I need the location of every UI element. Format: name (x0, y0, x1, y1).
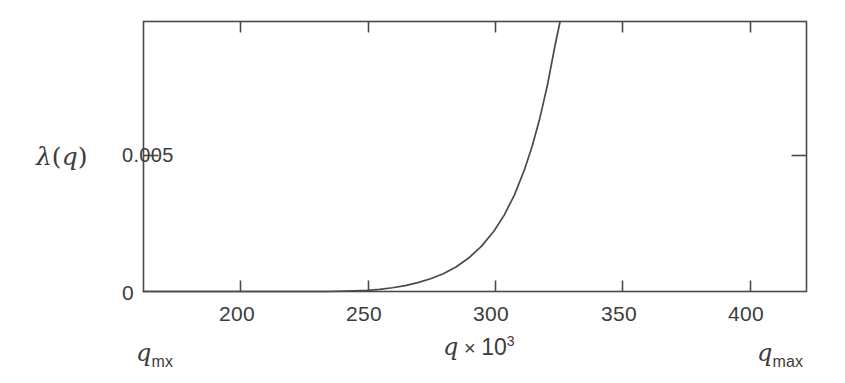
annotation-q-mx-var: q (136, 339, 151, 367)
x-axis-ticks-bottom (241, 281, 751, 292)
y-tick-label-0: 0 (122, 282, 134, 303)
annotation-q-max-sub: max (772, 353, 803, 370)
annotation-q-mx-sub: mx (151, 353, 173, 370)
y-axis-label-paren-open: ( (52, 142, 62, 171)
y-axis-label-arg: q (62, 142, 78, 171)
chart-plot-area (0, 0, 845, 383)
chart-figure: λ(q) 0.005 0 200 250 300 350 400 q × 103… (0, 0, 845, 383)
x-tick-label-400: 400 (728, 303, 764, 324)
plot-frame (144, 22, 807, 292)
annotation-q-max: qmax (757, 341, 803, 370)
x-axis-label: q × 103 (443, 334, 515, 359)
x-tick-label-250: 250 (346, 303, 382, 324)
x-axis-label-times: × (464, 337, 476, 359)
x-tick-label-300: 300 (473, 303, 509, 324)
x-axis-label-base: 10 (481, 334, 507, 360)
annotation-q-max-var: q (757, 339, 772, 367)
x-axis-ticks-top (241, 22, 751, 33)
y-axis-label: λ(q) (36, 144, 87, 169)
x-axis-label-exponent: 3 (507, 333, 515, 349)
annotation-q-mx: qmx (136, 341, 173, 370)
x-tick-label-350: 350 (601, 303, 637, 324)
x-tick-label-200: 200 (219, 303, 255, 324)
data-curve-lambda (144, 22, 561, 292)
y-axis-label-symbol: λ (36, 142, 52, 171)
y-axis-label-paren-close: ) (78, 142, 88, 171)
x-axis-label-var: q (443, 333, 458, 361)
y-tick-label-0005: 0.005 (122, 145, 174, 165)
